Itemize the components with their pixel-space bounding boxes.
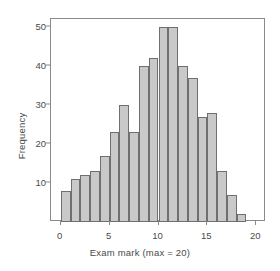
y-axis-tick-label: 30: [26, 98, 46, 109]
y-axis-tick-label: 20: [26, 137, 46, 148]
x-axis-tick-mark: [255, 221, 256, 225]
x-axis-tick-mark: [206, 221, 207, 225]
histogram-bar: [61, 191, 71, 222]
plot-area: [50, 18, 265, 221]
histogram-bar: [178, 66, 188, 222]
y-axis-tick-labels: 1020304050: [22, 18, 46, 221]
x-axis-tick-marks: [50, 221, 265, 225]
x-axis-tick-labels: 05101520: [50, 226, 265, 240]
histogram-bar: [129, 132, 139, 222]
histogram-bar: [217, 171, 227, 222]
histogram-bar: [198, 117, 208, 222]
histogram-bar: [80, 175, 90, 222]
histogram-bar: [168, 27, 178, 222]
x-axis-tick-label: 5: [98, 230, 120, 241]
histogram-chart: Frequency 1020304050 05101520 Exam mark …: [0, 0, 280, 271]
x-axis-tick-mark: [60, 221, 61, 225]
y-axis-tick-label: 50: [26, 20, 46, 31]
y-axis-tick-label: 40: [26, 59, 46, 70]
y-axis-tick-label: 10: [26, 176, 46, 187]
x-axis-tick-label: 10: [147, 230, 169, 241]
histogram-bar: [71, 179, 81, 222]
histogram-bar: [119, 105, 129, 222]
x-axis-tick-mark: [158, 221, 159, 225]
histogram-bar: [188, 78, 198, 222]
histogram-bar: [207, 113, 217, 222]
histogram-bar: [139, 66, 149, 222]
x-axis-tick-label: 0: [49, 230, 71, 241]
x-axis-label: Exam mark (max = 20): [0, 247, 280, 258]
x-axis-tick-mark: [109, 221, 110, 225]
histogram-bar: [100, 156, 110, 222]
histogram-bar: [110, 132, 120, 222]
histogram-bar: [159, 27, 169, 222]
histogram-bar: [90, 171, 100, 222]
x-axis-tick-label: 20: [244, 230, 266, 241]
x-axis-tick-label: 15: [195, 230, 217, 241]
histogram-bar: [227, 195, 237, 222]
histogram-bar: [149, 58, 159, 222]
